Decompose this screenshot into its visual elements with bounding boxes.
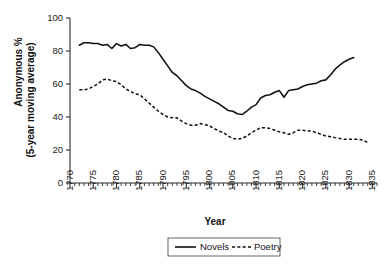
- y-tick-label: 0: [58, 177, 63, 188]
- x-tick-label: 1790: [157, 170, 168, 191]
- x-tick-label: 1805: [226, 170, 237, 191]
- x-tick-label: 1800: [203, 170, 214, 191]
- x-tick-label: 1780: [110, 170, 121, 191]
- plot-background: [0, 0, 389, 265]
- y-tick-label: 60: [52, 78, 63, 89]
- y-tick-label: 80: [52, 45, 63, 56]
- x-tick-label: 1785: [133, 170, 144, 191]
- x-tick-label: 1775: [87, 170, 98, 191]
- y-tick-label: 20: [52, 144, 63, 155]
- chart-figure: 020406080100 177017751780178517901795180…: [0, 0, 389, 265]
- legend-label-poetry: Poetry: [254, 241, 282, 252]
- legend: Novels Poetry: [168, 238, 282, 256]
- x-tick-label: 1815: [273, 170, 284, 191]
- x-tick-label: 1795: [180, 170, 191, 191]
- y-tick-label: 100: [47, 12, 63, 23]
- line-chart: 020406080100 177017751780178517901795180…: [0, 0, 389, 265]
- legend-label-novels: Novels: [200, 241, 229, 252]
- x-axis-title: Year: [204, 216, 225, 227]
- x-tick-label: 1835: [366, 170, 377, 191]
- y-tick-label: 40: [52, 111, 63, 122]
- y-axis-title-line1: Anonymous %: [13, 37, 24, 107]
- y-axis-title-line2: (5-year moving average): [25, 42, 36, 157]
- x-tick-label: 1770: [64, 170, 75, 191]
- x-tick-label: 1820: [296, 170, 307, 191]
- x-tick-label: 1810: [250, 170, 261, 191]
- x-tick-label: 1825: [319, 170, 330, 191]
- x-tick-label: 1830: [343, 170, 354, 191]
